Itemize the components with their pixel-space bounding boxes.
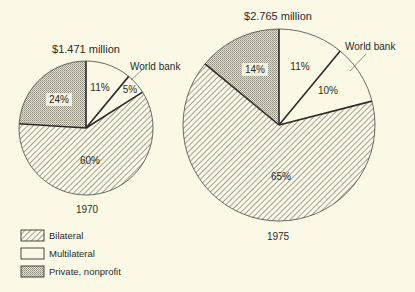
legend: Bilateral Multilateral Private, nonprofi… [21, 230, 121, 277]
legend-item-bilateral: Bilateral [21, 230, 83, 241]
pie-1975-label-multilateral: 11% [290, 61, 309, 72]
pie-1970-label-private: 24% [49, 94, 69, 105]
pie-1970-title: $1.471 million [52, 43, 120, 55]
legend-label: Multilateral [49, 248, 95, 259]
stipple-swatch-icon [21, 266, 44, 277]
pie-1975-label-bilateral: 65% [271, 171, 291, 182]
legend-item-multilateral: Multilateral [21, 248, 95, 259]
pie-1975-caption: 1975 [267, 231, 290, 242]
pie-charts-figure: $1.471 million 11% 5% 60% 24% World bank… [0, 0, 415, 292]
pie-1970-label-bilateral: 60% [80, 155, 100, 166]
pie-1975-label-worldbank: 10% [318, 85, 338, 96]
pie-1970-caption: 1970 [76, 204, 99, 215]
legend-label: Private, nonprofit [49, 266, 121, 277]
pie-1970-callout: World bank [130, 61, 181, 72]
pie-1975-callout: World bank [345, 41, 396, 52]
pie-1970-label-worldbank: 5% [123, 84, 138, 95]
pie-1975-callout-line [350, 54, 366, 71]
blank-swatch-icon [21, 248, 44, 259]
pie-1970-label-multilateral: 11% [90, 82, 109, 93]
legend-item-private-nonprofit: Private, nonprofit [21, 266, 121, 277]
pie-1975-label-private: 14% [245, 64, 265, 75]
pie-1975-title: $2.765 million [244, 10, 312, 22]
hatch-swatch-icon [21, 230, 44, 241]
pie-1975: $2.765 million 11% 10% 65% 14% World ban… [183, 10, 396, 242]
legend-label: Bilateral [49, 230, 83, 241]
pie-1970: $1.471 million 11% 5% 60% 24% World bank… [19, 43, 181, 215]
